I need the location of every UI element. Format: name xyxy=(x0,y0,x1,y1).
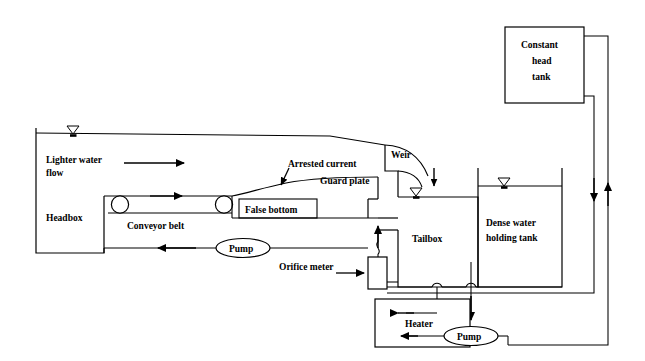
constant-head-tank-label-line2: head xyxy=(532,56,552,66)
weir-label: Weir xyxy=(391,150,412,160)
orifice-meter-label: Orifice meter xyxy=(279,262,334,272)
guard-plate-label: Guard plate xyxy=(320,176,369,186)
conveyor-belt xyxy=(104,196,233,213)
headbox-label: Headbox xyxy=(46,213,83,223)
headbox xyxy=(36,128,104,253)
heater-label: Heater xyxy=(405,319,434,329)
tailbox-label: Tailbox xyxy=(412,234,443,244)
pump-upper-label: Pump xyxy=(229,244,253,254)
headbox-water-level xyxy=(67,126,79,137)
constant-head-tank-label-line1: Constant xyxy=(521,40,559,50)
schematic-svg: Headbox Lighter water flow Conveyor belt… xyxy=(0,0,645,361)
dense-water-tank-water-level xyxy=(498,178,510,189)
pump-lower-label: Pump xyxy=(457,332,481,342)
dense-water-holding-tank-label-line2: holding tank xyxy=(486,233,538,243)
conveyor-belt-label: Conveyor belt xyxy=(127,221,185,231)
headbox-water-surface-line xyxy=(36,133,385,145)
arrested-current-label: Arrested current xyxy=(288,159,357,169)
conveyor-roller-left xyxy=(111,196,128,213)
false-bottom-label: False bottom xyxy=(245,205,298,215)
orifice-meter xyxy=(368,257,387,289)
constant-head-tank-overflow-pipe xyxy=(562,96,594,293)
lighter-water-flow-label-line1: Lighter water xyxy=(46,155,103,165)
lighter-water-flow-label-line2: flow xyxy=(46,168,64,178)
conveyor-roller-right xyxy=(215,196,232,213)
dense-water-holding-tank-label-line1: Dense water xyxy=(486,218,537,228)
process-flow-diagram: Headbox Lighter water flow Conveyor belt… xyxy=(0,0,645,361)
constant-head-tank-label-line3: tank xyxy=(532,72,551,82)
